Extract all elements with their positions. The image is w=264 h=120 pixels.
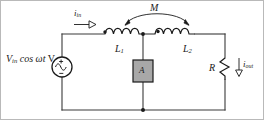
inductor-L1-subscript: 1 (121, 47, 124, 54)
inductor-L2-dot (156, 30, 159, 33)
input-current-subscript: in (77, 12, 82, 18)
mutual-inductance-label: M (150, 3, 158, 13)
input-current-label: iin (74, 9, 81, 19)
ac-voltage-source (52, 57, 72, 77)
source-label: Vin cos ωt V (6, 54, 55, 65)
output-current-subscript: out (246, 63, 254, 69)
source-expression: cos ωt (17, 53, 45, 64)
resistor-label: R (209, 63, 215, 73)
junction-node-bottom (141, 108, 145, 112)
circuit-diagram-figure: Vin cos ωt V iin M L1 L2 R iout A (0, 0, 264, 120)
resistor-R (220, 58, 229, 80)
output-current-arrow (236, 58, 243, 77)
inductor-L1-label: L1 (115, 44, 124, 55)
input-current-arrow (74, 21, 96, 28)
inductor-L2 (155, 28, 195, 34)
inductor-L1 (105, 28, 143, 34)
mutual-coupling-arc (125, 14, 189, 26)
source-unit: V (45, 53, 55, 64)
inductor-L2-label: L2 (183, 44, 192, 55)
junction-node-top (141, 32, 145, 36)
inductor-L2-subscript: 2 (189, 47, 192, 54)
inductor-L1-dot (103, 30, 106, 33)
ammeter-label: A (139, 66, 145, 75)
output-current-label: iout (243, 60, 253, 70)
